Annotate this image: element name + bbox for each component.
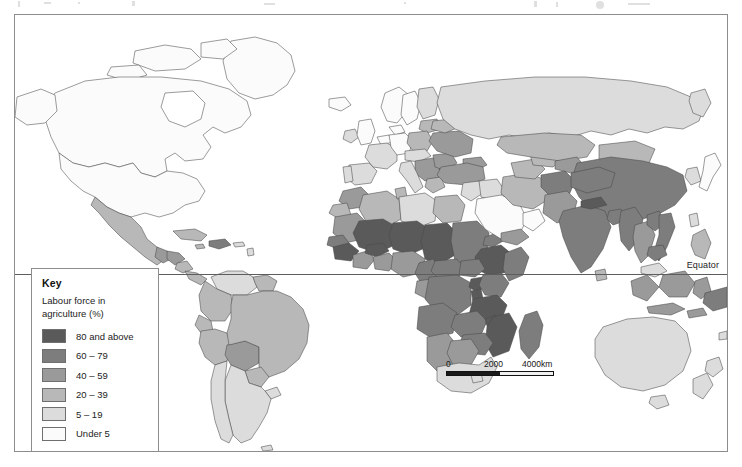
scale-tick-1: 2000	[484, 359, 503, 369]
scale-bar-ticks: 0 2000 4000km	[446, 359, 560, 371]
region-egypt	[433, 195, 465, 223]
legend-label-40-59: 40 – 59	[76, 370, 108, 381]
legend-row: 5 – 19	[42, 405, 149, 423]
legend-row: Under 5	[42, 425, 149, 443]
region-russia	[437, 77, 703, 139]
region-lesser-sunda	[687, 308, 707, 318]
region-falklands	[261, 445, 273, 451]
region-ireland	[343, 129, 359, 143]
region-tasmania	[649, 395, 669, 409]
map-legend: Key Labour force in agriculture (%) 80 a…	[31, 268, 159, 452]
legend-row: 80 and above	[42, 327, 149, 345]
legend-swatch-20-39	[42, 388, 66, 402]
region-united-kingdom	[357, 119, 375, 145]
region-taiwan	[689, 213, 699, 227]
scan-artifacts	[0, 0, 742, 12]
region-philippines	[691, 229, 711, 259]
legend-swatch-5-19	[42, 407, 66, 421]
legend-row: 40 – 59	[42, 366, 149, 384]
scale-segment-dark	[447, 372, 500, 375]
legend-row: 60 – 79	[42, 347, 149, 365]
region-puerto-rico	[233, 242, 245, 247]
map-page: Equator 0 2000 4000km Key Labour force i…	[0, 0, 742, 467]
scale-tick-2: 4000km	[522, 359, 552, 369]
scale-bar: 0 2000 4000km	[446, 359, 560, 376]
legend-label-5-19: 5 – 19	[76, 409, 102, 420]
region-angola	[417, 303, 457, 339]
region-cambodia	[647, 245, 667, 261]
legend-swatch-60-79	[42, 349, 66, 363]
region-south-america	[195, 271, 309, 451]
region-lesser-antilles	[247, 248, 254, 256]
region-north-america	[15, 37, 295, 285]
legend-label-under-5: Under 5	[76, 428, 110, 439]
region-fiji-pacific	[719, 331, 727, 340]
region-canada-arctic-1	[133, 45, 201, 71]
legend-swatch-40-59	[42, 368, 66, 382]
region-finland	[417, 87, 439, 119]
legend-swatch-80-and-above	[42, 329, 66, 343]
region-bolivia	[225, 341, 259, 371]
region-japan	[699, 153, 721, 191]
region-sumatra	[631, 275, 659, 301]
region-nicaragua	[175, 261, 193, 273]
region-korea	[685, 167, 701, 185]
legend-label-60-79: 60 – 79	[76, 350, 108, 361]
legend-label-20-39: 20 – 39	[76, 389, 108, 400]
region-somalia	[503, 247, 529, 281]
region-cuba	[173, 229, 207, 241]
region-india	[559, 205, 611, 273]
scale-tick-0: 0	[446, 359, 451, 369]
region-kenya	[479, 273, 509, 297]
region-new-zealand-south	[693, 373, 713, 399]
legend-row: 20 – 39	[42, 386, 149, 404]
region-kazakhstan	[497, 133, 595, 161]
region-oman-uae	[523, 209, 545, 231]
legend-label-80-and-above: 80 and above	[76, 331, 134, 342]
region-madagascar	[519, 311, 543, 359]
region-canada	[45, 77, 251, 177]
region-iceland	[329, 97, 351, 111]
legend-swatch-under-5	[42, 427, 66, 441]
scale-bar-track	[446, 371, 554, 376]
region-portugal	[343, 166, 353, 183]
legend-subtitle: Labour force in agriculture (%)	[42, 295, 149, 320]
equator-label: Equator	[687, 260, 719, 270]
region-ukraine	[429, 131, 473, 157]
map-frame: Equator 0 2000 4000km Key Labour force i…	[14, 14, 728, 452]
legend-title: Key	[42, 277, 149, 289]
region-java	[647, 303, 685, 315]
region-guyanas	[253, 275, 277, 291]
region-australia	[595, 317, 691, 391]
region-jamaica	[195, 244, 205, 249]
scale-segment-light	[500, 372, 553, 375]
region-hispaniola	[209, 239, 231, 249]
region-sri-lanka	[595, 269, 607, 281]
